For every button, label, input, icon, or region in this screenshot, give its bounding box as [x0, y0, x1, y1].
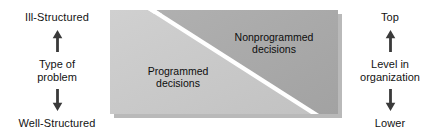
- right-axis-group: Top Level in organization Lower: [346, 0, 434, 133]
- diagram-canvas: Ill-Structured Type of problem Well-Stru…: [0, 0, 435, 133]
- left-axis-middle-line1: Type of: [37, 58, 77, 71]
- left-axis-middle-line2: problem: [37, 71, 77, 84]
- decision-matrix-svg: [110, 10, 338, 114]
- left-axis-middle-label: Type of problem: [37, 58, 77, 83]
- right-axis-middle-label: Level in organization: [360, 58, 420, 83]
- arrow-down-icon: [52, 89, 63, 111]
- arrow-up-icon: [385, 30, 396, 52]
- decision-matrix-block: Programmed decisions Nonprogrammed decis…: [110, 10, 338, 114]
- right-axis-middle-line1: Level in: [360, 58, 420, 71]
- right-axis-bottom-label: Lower: [375, 117, 405, 129]
- right-axis-middle-line2: organization: [360, 71, 420, 84]
- right-axis-top-label: Top: [381, 11, 399, 23]
- arrow-up-icon: [52, 30, 63, 52]
- arrow-down-icon: [385, 89, 396, 111]
- left-axis-group: Ill-Structured Type of problem Well-Stru…: [2, 0, 112, 133]
- left-axis-top-label: Ill-Structured: [25, 11, 89, 23]
- left-axis-bottom-label: Well-Structured: [18, 117, 95, 129]
